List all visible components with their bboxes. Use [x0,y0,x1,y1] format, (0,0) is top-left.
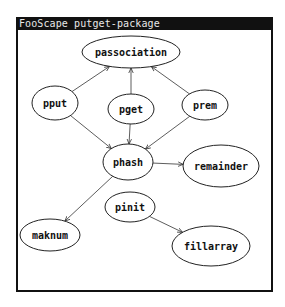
node-pinit[interactable]: pinit [105,192,155,222]
node-passociation[interactable]: passociation [82,36,180,68]
edge-phash-to-remainder [153,163,183,164]
node-remainder[interactable]: remainder [183,145,259,187]
node-pget[interactable]: pget [108,94,154,124]
node-prem[interactable]: prem [182,90,228,120]
edge-pput-to-phash [71,116,112,149]
node-label: pget [119,104,143,115]
edge-pget-to-phash [129,124,130,144]
call-graph: passociationpputpgetpremphashremainderma… [0,0,285,307]
node-fillarray[interactable]: fillarray [172,226,250,266]
node-label: remainder [194,161,248,172]
edge-phash-to-maknum [65,176,113,221]
node-phash[interactable]: phash [103,144,153,180]
node-pput[interactable]: pput [32,86,78,120]
node-label: fillarray [184,241,238,252]
node-label: pinit [115,202,145,213]
edge-pput-to-passociation [72,66,110,91]
graph-nodes: passociationpputpgetpremphashremainderma… [20,36,259,266]
node-label: phash [113,157,143,168]
node-label: pput [43,98,67,109]
node-label: prem [193,100,217,111]
edge-prem-to-phash [145,116,189,149]
node-label: maknum [32,230,68,241]
edge-prem-to-passociation [151,67,189,94]
node-label: passociation [95,47,167,58]
edge-pinit-to-fillarray [149,216,182,232]
node-maknum[interactable]: maknum [20,219,80,251]
